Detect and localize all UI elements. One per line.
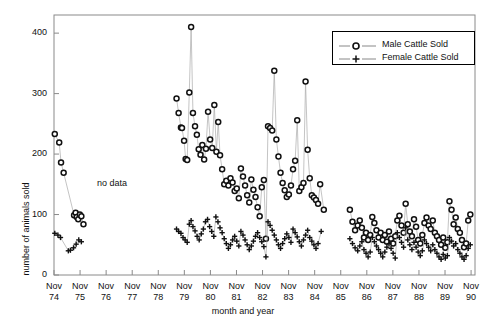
data-point-circle-icon [255,205,260,210]
x-axis-tick-label-line: 81 [222,292,250,303]
data-point-circle-icon [288,183,293,188]
data-point-circle-icon [307,176,312,181]
x-axis-tick-label: Nov89 [431,281,459,303]
data-point-circle-icon [386,229,391,234]
x-axis-tick-label-line: Nov [327,281,355,292]
data-point-circle-icon [414,224,419,229]
data-point-circle-icon [263,236,268,241]
data-point-circle-icon [466,218,471,223]
x-axis-tick-label-line: Nov [222,281,250,292]
x-axis-tick-label-line: 80 [196,292,224,303]
x-axis-tick-label-line: 85 [327,292,355,303]
data-point-circle-icon [453,215,458,220]
y-axis-tick-label: 100 [21,209,47,219]
legend-marker-circle-icon [338,40,378,52]
data-point-circle-icon [198,152,203,157]
data-point-circle-icon [236,196,241,201]
x-axis-tick-label-line: 88 [405,292,433,303]
x-axis-tick-label-line: Nov [118,281,146,292]
x-axis-tick-label-line: 89 [431,292,459,303]
x-axis-tick-label: Nov78 [144,281,172,303]
x-axis-tick-label: Nov80 [196,281,224,303]
data-point-circle-icon [303,79,308,84]
data-point-circle-icon [274,137,279,142]
x-axis-tick-label-line: 83 [275,292,303,303]
x-axis-tick-label-line: Nov [170,281,198,292]
data-point-circle-icon [280,181,285,186]
x-axis-tick-label: Nov81 [222,281,250,303]
data-point-circle-icon [441,235,446,240]
data-point-circle-icon [251,187,256,192]
x-axis-tick-label-line: Nov [431,281,459,292]
data-point-circle-icon [193,124,198,129]
x-axis-tick-label-line: 79 [170,292,198,303]
data-point-circle-icon [194,132,199,137]
data-point-circle-icon [286,192,291,197]
data-point-circle-icon [420,233,425,238]
data-point-circle-icon [305,147,310,152]
data-point-circle-icon [247,200,252,205]
x-axis-tick-label-line: Nov [92,281,120,292]
x-axis-tick-label-line: 78 [144,292,172,303]
x-axis-tick-label: Nov86 [353,281,381,303]
x-axis-tick-label-line: Nov [196,281,224,292]
x-axis-tick-label-line: 87 [379,292,407,303]
data-point-circle-icon [272,68,277,73]
x-axis-tick-label: Nov79 [170,281,198,303]
data-point-circle-icon [430,218,435,223]
x-axis-tick-label: Nov76 [92,281,120,303]
data-point-circle-icon [79,214,84,219]
data-point-circle-icon [176,110,181,115]
y-axis-title-wrapper: number of animals sold [8,80,22,210]
x-axis-tick-label-line: 76 [92,292,120,303]
data-point-circle-icon [245,193,250,198]
chart-figure: number of animals sold month and year no… [0,0,486,331]
data-point-circle-icon [403,201,408,206]
data-point-circle-icon [57,140,62,145]
data-point-circle-icon [179,126,184,131]
x-axis-tick-label-line: Nov [379,281,407,292]
data-point-circle-icon [249,177,254,182]
data-point-circle-icon [276,154,281,159]
x-axis-tick-label-line: Nov [249,281,277,292]
data-point-circle-icon [257,214,262,219]
data-point-circle-icon [238,166,243,171]
data-point-circle-icon [301,181,306,186]
legend-label-female: Female Cattle Sold [382,52,459,62]
data-point-circle-icon [203,146,208,151]
data-point-circle-icon [418,241,423,246]
data-point-circle-icon [190,110,195,115]
data-point-circle-icon [261,178,266,183]
legend-marker-plus-icon [338,53,378,65]
x-axis-tick-label-line: 74 [40,292,68,303]
x-axis-tick-label: Nov82 [249,281,277,303]
x-axis-tick-label: Nov84 [301,281,329,303]
data-point-circle-icon [318,182,323,187]
series-line [55,233,82,251]
data-point-circle-icon [350,219,355,224]
data-point-circle-icon [59,160,64,165]
data-point-circle-icon [295,118,300,123]
data-point-circle-icon [216,120,221,125]
data-point-circle-icon [370,214,375,219]
x-axis-tick-label: Nov85 [327,281,355,303]
data-point-circle-icon [293,158,298,163]
x-axis-tick-label: Nov83 [275,281,303,303]
data-point-circle-icon [443,245,448,250]
x-axis-tick-label: Nov77 [118,281,146,303]
data-point-circle-icon [230,180,235,185]
x-axis-tick-label-line: Nov [301,281,329,292]
x-axis-tick-label: Nov75 [66,281,94,303]
data-point-circle-icon [321,207,326,212]
data-point-circle-icon [424,215,429,220]
data-point-circle-icon [234,186,239,191]
data-point-circle-icon [206,109,211,114]
x-axis-tick-label-line: Nov [457,281,485,292]
data-point-circle-icon [240,174,245,179]
data-point-circle-icon [182,138,187,143]
x-axis-title: month and year [0,306,486,316]
data-point-circle-icon [468,212,473,217]
data-point-circle-icon [347,207,352,212]
y-axis-tick-label: 300 [21,88,47,98]
data-point-circle-icon [447,199,452,204]
